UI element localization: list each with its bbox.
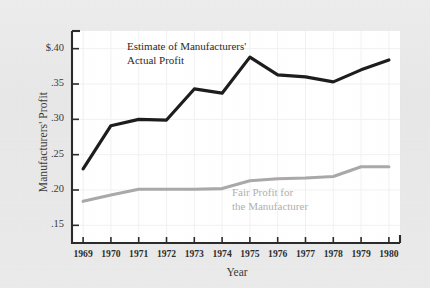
actual-profit-label-line1: Estimate of Manufacturers' <box>127 40 246 54</box>
y-axis-title: Manufacturers' Profit <box>37 62 49 222</box>
x-axis-title: Year <box>72 266 402 278</box>
x-tick-label: 1980 <box>372 248 406 259</box>
profit-line-chart: $.40.35.30.25.20.15 19691970197119721973… <box>0 0 430 288</box>
fair-profit-label-line2: the Manufacturer <box>232 200 308 214</box>
y-tick-label: $.40 <box>30 42 64 53</box>
chart-page: $.40.35.30.25.20.15 19691970197119721973… <box>0 0 430 288</box>
actual-profit-label-line2: Actual Profit <box>127 54 246 68</box>
actual-profit-label: Estimate of Manufacturers' Actual Profit <box>127 40 246 67</box>
fair-profit-label-line1: Fair Profit for <box>232 186 308 200</box>
fair-profit-label: Fair Profit for the Manufacturer <box>232 186 308 213</box>
